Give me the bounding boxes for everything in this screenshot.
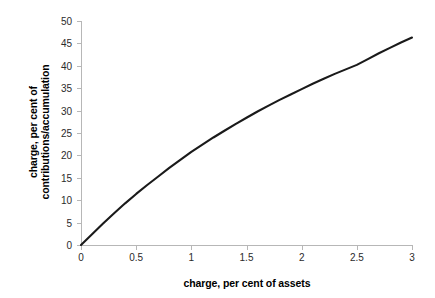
y-tick-label: 35: [12, 83, 72, 94]
y-tick-mark: [77, 21, 81, 22]
y-tick-mark: [77, 88, 81, 89]
x-tick-label: 1.5: [227, 252, 267, 263]
x-tick-mark: [191, 246, 192, 250]
y-tick-mark: [77, 43, 81, 44]
x-tick-mark: [357, 246, 358, 250]
x-tick-label: 2: [282, 252, 322, 263]
y-tick-label: 25: [12, 128, 72, 139]
x-tick-label: 2.5: [337, 252, 377, 263]
x-axis-title: charge, per cent of assets: [81, 277, 413, 289]
y-tick-label: 15: [12, 172, 72, 183]
x-tick-mark: [412, 246, 413, 250]
y-tick-label: 30: [12, 105, 72, 116]
y-tick-label: 5: [12, 217, 72, 228]
y-tick-mark: [77, 155, 81, 156]
y-tick-label: 10: [12, 195, 72, 206]
y-tick-label: 20: [12, 150, 72, 161]
y-tick-label: 40: [12, 60, 72, 71]
x-tick-label: 0: [61, 252, 101, 263]
y-tick-label: 50: [12, 16, 72, 27]
y-axis-line: [81, 21, 82, 246]
y-tick-label: 0: [12, 240, 72, 251]
x-tick-mark: [136, 246, 137, 250]
y-tick-mark: [77, 178, 81, 179]
y-tick-mark: [77, 133, 81, 134]
x-tick-mark: [302, 246, 303, 250]
y-tick-label: 45: [12, 38, 72, 49]
x-tick-mark: [247, 246, 248, 250]
x-tick-mark: [81, 246, 82, 250]
series-line-charge-ratio: [81, 38, 412, 245]
y-tick-mark: [77, 223, 81, 224]
x-tick-label: 1: [171, 252, 211, 263]
x-tick-label: 3: [392, 252, 432, 263]
x-tick-label: 0.5: [116, 252, 156, 263]
y-tick-mark: [77, 66, 81, 67]
y-tick-mark: [77, 111, 81, 112]
y-tick-mark: [77, 200, 81, 201]
chart-figure: charge, per cent of contributions/accumu…: [0, 0, 435, 298]
